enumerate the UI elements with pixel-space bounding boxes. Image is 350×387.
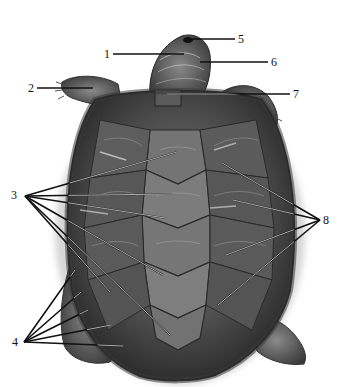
label-3: 3 [11, 189, 17, 201]
label-7: 7 [293, 88, 299, 100]
turtle-diagram: 1 2 3 4 5 6 7 8 [0, 0, 350, 387]
turtle-illustration [0, 0, 350, 387]
label-5: 5 [238, 33, 244, 45]
label-1: 1 [104, 48, 110, 60]
carapace [67, 90, 294, 380]
label-6: 6 [271, 56, 277, 68]
label-8: 8 [323, 214, 329, 226]
label-2: 2 [28, 82, 34, 94]
label-4: 4 [12, 336, 18, 348]
